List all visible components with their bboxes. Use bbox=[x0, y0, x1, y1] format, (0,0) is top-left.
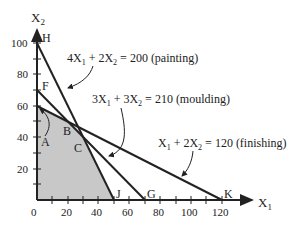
painting-label: 4X1 + 2X2 = 200 (painting) bbox=[67, 51, 198, 67]
point-label-c: C bbox=[74, 141, 82, 155]
y-tick-label: 40 bbox=[17, 131, 29, 143]
x-axis-title: X1 bbox=[258, 195, 272, 212]
point-label-a: A bbox=[41, 135, 50, 149]
point-label-h: H bbox=[42, 31, 51, 45]
x-tick-label: 20 bbox=[61, 206, 73, 218]
y-axis-title: X2 bbox=[31, 10, 45, 27]
point-label-k: K bbox=[224, 187, 233, 201]
point-label-b: B bbox=[63, 124, 71, 138]
moulding-label: 3X1 + 3X2 = 210 (moulding) bbox=[92, 92, 230, 108]
finishing-pointer-arrow bbox=[182, 151, 193, 176]
y-tick-label: 100 bbox=[11, 37, 28, 49]
lp-chart: 0 20 40 60 80 100 120 20 40 60 80 100 X2… bbox=[0, 0, 303, 232]
x-tick-label: 80 bbox=[153, 206, 165, 218]
point-label-g: G bbox=[147, 187, 156, 201]
origin-label: 0 bbox=[31, 206, 37, 218]
y-tick-label: 60 bbox=[17, 100, 29, 112]
point-label-j: J bbox=[116, 187, 121, 201]
x-tick-label: 60 bbox=[122, 206, 134, 218]
x-tick-label: 120 bbox=[212, 206, 229, 218]
y-tick-label: 20 bbox=[17, 163, 29, 175]
x-tick-label: 40 bbox=[91, 206, 103, 218]
painting-pointer-arrow bbox=[68, 66, 93, 88]
finishing-label: X1 + 2X2 = 120 (finishing) bbox=[158, 136, 287, 152]
x-tick-label: 100 bbox=[181, 206, 198, 218]
point-label-f: F bbox=[42, 79, 49, 93]
y-tick-label: 80 bbox=[17, 68, 29, 80]
